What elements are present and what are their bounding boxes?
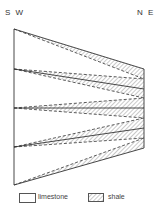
shale-wedges xyxy=(14,29,144,185)
legend-label-limestone: limestone xyxy=(38,193,68,200)
legend-label-shale: shale xyxy=(108,193,125,200)
legend-swatch-shale xyxy=(88,193,104,203)
cross-section-diagram xyxy=(0,0,159,213)
legend-swatch-limestone xyxy=(19,193,36,203)
